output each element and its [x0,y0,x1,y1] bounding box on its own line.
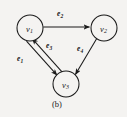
edge-label-e2-subscript: 2 [61,13,64,19]
edge-label-e4: e4 [77,45,83,54]
edge-label-e4-subscript: 4 [81,48,84,54]
node-label-v1: v1 [26,25,33,35]
edge-label-e3-subscript: 3 [50,45,53,51]
edge-label-e1-base: e [17,54,20,63]
edge-label-e3-base: e [46,41,49,50]
edge-label-e1-subscript: 1 [21,58,24,64]
node-label-v3: v3 [62,81,69,91]
figure-caption: (b) [52,100,62,109]
edge-label-e2-base: e [57,9,60,18]
node-label-v2-subscript: 2 [104,28,107,34]
edge-line-e1 [27,41,58,75]
directed-graph-figure: v1 v2 v3 e2 e3 e1 e4 (b) [0,0,127,117]
node-label-v2: v2 [100,25,107,35]
edge-label-e2: e2 [57,10,63,19]
edge-label-e4-base: e [77,44,80,53]
node-label-v1-subscript: 1 [30,28,33,34]
edge-label-e3: e3 [46,42,52,51]
node-label-v3-subscript: 3 [66,84,69,90]
edge-label-e1: e1 [17,55,23,64]
